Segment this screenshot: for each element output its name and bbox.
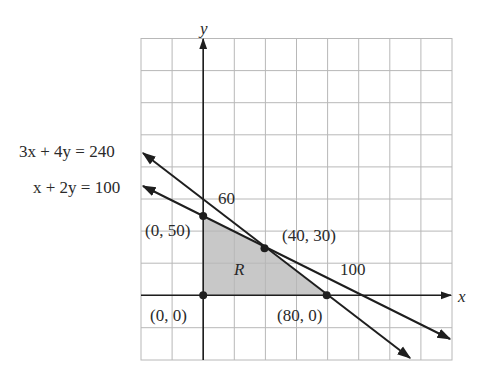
tick-label-60: 60	[218, 189, 235, 208]
tick-label-100: 100	[340, 260, 366, 279]
region-label: R	[233, 260, 245, 279]
point-label-40-30: (40, 30)	[282, 226, 336, 245]
line2-label: x + 2y = 100	[33, 178, 120, 197]
point-label-80-0: (80, 0)	[277, 306, 322, 325]
vertex-80-0	[323, 291, 331, 299]
y-axis-label: y	[198, 19, 208, 38]
x-axis-label: x	[457, 287, 466, 306]
line1-label: 3x + 4y = 240	[19, 142, 115, 161]
linear-programming-graph: y x 3x + 4y = 240 x + 2y = 100 60 100 R …	[0, 0, 483, 381]
vertex-0-0	[199, 291, 207, 299]
point-label-0-50: (0, 50)	[145, 221, 190, 240]
vertex-40-30	[261, 244, 269, 252]
point-label-0-0: (0, 0)	[150, 306, 187, 325]
vertex-0-50	[199, 212, 207, 220]
